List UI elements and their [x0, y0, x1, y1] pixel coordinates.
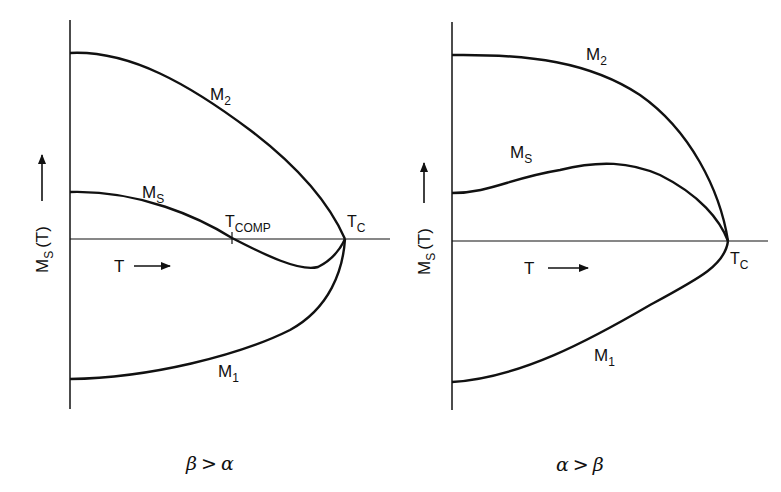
x-axis-label: T	[524, 259, 534, 278]
curve-m2	[452, 55, 728, 241]
condition-right: α>β	[556, 453, 604, 475]
curve-m2	[70, 53, 345, 239]
svg-text:MS(T): MS(T)	[33, 226, 56, 273]
curve-m1	[452, 241, 728, 382]
label-tcomp: TCOMP	[225, 213, 271, 235]
y-axis-label: MS(T)	[415, 163, 438, 275]
label-m1: M1	[218, 362, 239, 385]
label-m1: M1	[594, 346, 615, 369]
panel-right: M2 MS M1 TC MS(T) T α>β	[415, 22, 768, 475]
curve-ms	[70, 192, 345, 268]
label-ms: MS	[510, 143, 532, 166]
svg-text:MS(T): MS(T)	[415, 228, 438, 275]
label-tc: TC	[730, 250, 749, 272]
curve-m1	[70, 239, 345, 379]
x-axis-label: T	[114, 257, 124, 276]
figure: M2 MS M1 TCOMP TC MS(T) T β>α	[0, 0, 781, 492]
panel-left: M2 MS M1 TCOMP TC MS(T) T β>α	[33, 20, 390, 474]
y-axis-label: MS(T)	[33, 155, 56, 273]
curve-ms	[452, 164, 728, 241]
label-m2: M2	[586, 45, 607, 68]
label-tc: TC	[347, 213, 366, 235]
condition-left: β>α	[185, 452, 234, 474]
